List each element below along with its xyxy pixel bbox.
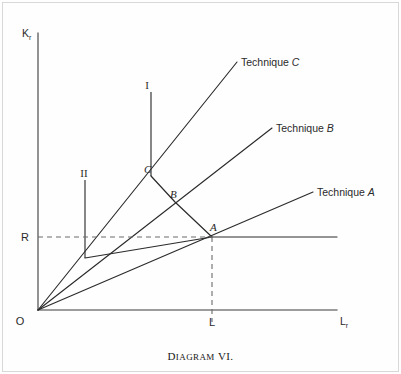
x-axis-label-sub: r [346, 322, 349, 329]
technique-c-ray [38, 62, 237, 310]
dashed-guides-group [38, 237, 212, 322]
technique-a-label: Technique A [317, 186, 375, 198]
origin-label: O [16, 315, 25, 327]
axis-labels-group: Kr Lr O R L [16, 27, 349, 329]
technique-b-label: Technique B [276, 122, 334, 134]
technique-c-label: Technique C [241, 56, 300, 68]
technique-a-letter: A [367, 186, 375, 198]
caption-word: IAGRAM [176, 352, 215, 362]
y-axis-label: Kr [22, 27, 32, 41]
technique-b-letter: B [327, 122, 334, 134]
technique-c-prefix: Technique [241, 56, 292, 68]
y-axis-label-main: K [22, 27, 29, 39]
technique-c-letter: C [292, 56, 300, 68]
technique-labels-group: Technique C Technique B Technique A [241, 56, 375, 198]
x-axis-label: Lr [340, 315, 349, 329]
technique-a-ray [38, 192, 313, 310]
technique-rays-group [38, 62, 313, 310]
caption-initial: D [168, 350, 176, 362]
technique-b-ray [38, 128, 272, 310]
x-tick-label-l: L [209, 316, 215, 328]
isoquant-two-label: II [80, 167, 88, 179]
diagram-canvas: Technique C Technique B Technique A C B … [0, 0, 401, 374]
technique-a-prefix: Technique [317, 186, 368, 198]
point-b-label: B [170, 188, 177, 200]
isoquant-one-label: I [145, 79, 149, 91]
isoquant-one-group [151, 92, 337, 237]
caption-number: VI. [218, 350, 234, 362]
isoquant-labels-group: I II [80, 79, 149, 179]
diagram-figure: Technique C Technique B Technique A C B … [0, 0, 401, 374]
y-axis-label-sub: r [29, 34, 32, 41]
point-labels-group: C B A [144, 163, 217, 233]
y-tick-label-r: R [21, 231, 29, 243]
point-c-label: C [144, 163, 152, 175]
isoquant-two-curve [85, 237, 212, 258]
figure-caption: DIAGRAM VI. [0, 346, 401, 364]
isoquant-one-curve [151, 176, 337, 237]
technique-b-prefix: Technique [276, 122, 327, 134]
point-a-label: A [209, 221, 217, 233]
